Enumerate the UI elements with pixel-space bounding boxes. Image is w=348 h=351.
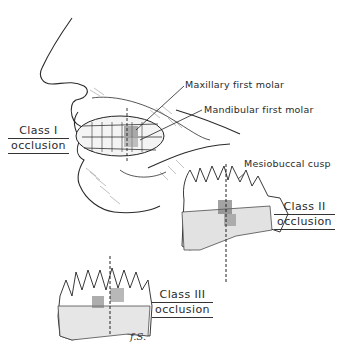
class-ii-label: Class II occlusion [274, 200, 335, 230]
label-maxillary-first-molar: Maxillary first molar [185, 79, 284, 90]
label-mandibular-first-molar: Mandibular first molar [204, 104, 314, 115]
class-i-label: Class I occlusion [8, 124, 69, 154]
class-iii-label: Class III occlusion [152, 288, 213, 318]
label-mesiobuccal-cusp: Mesiobuccal cusp [244, 158, 331, 169]
class-ii-jaw [182, 164, 288, 282]
artist-signature: f.S. [130, 331, 146, 342]
class-iii-jaw [58, 256, 152, 340]
